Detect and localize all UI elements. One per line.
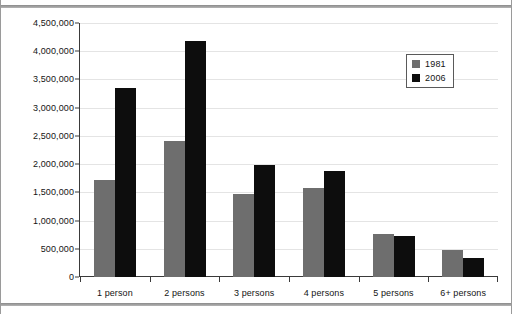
bar-1981-3-persons[interactable] <box>233 194 254 277</box>
legend-swatch-icon <box>412 60 420 68</box>
bar-2006-5-persons[interactable] <box>394 236 415 277</box>
x-axis-tick <box>428 277 429 282</box>
x-axis-category-label: 4 persons <box>289 288 359 306</box>
y-axis-tick-label: 2,500,000 <box>33 131 74 141</box>
x-axis-tick <box>80 277 81 282</box>
bar-group <box>219 23 289 277</box>
chart-legend: 19812006 <box>406 54 454 88</box>
y-axis-tick-label: 3,500,000 <box>33 74 74 84</box>
y-axis-tick-label: 1,500,000 <box>33 187 74 197</box>
x-axis-category-label: 3 persons <box>219 288 289 306</box>
bar-group <box>80 23 150 277</box>
bar-2006-4-persons[interactable] <box>324 171 345 277</box>
bar-1981-1-person[interactable] <box>94 180 115 277</box>
bar-2006-6+-persons[interactable] <box>463 258 484 277</box>
bar-chart: 4,500,0004,000,0003,500,0003,000,0002,50… <box>1 12 512 302</box>
y-axis-tick-label: 4,500,000 <box>33 18 74 28</box>
y-axis-tick-label: 3,000,000 <box>33 103 74 113</box>
legend-item[interactable]: 1981 <box>412 59 446 69</box>
bar-1981-6+-persons[interactable] <box>442 250 463 277</box>
legend-label: 1981 <box>425 59 446 69</box>
bar-1981-2-persons[interactable] <box>164 141 185 277</box>
x-axis-category-label: 5 persons <box>359 288 429 306</box>
bar-group <box>150 23 220 277</box>
y-axis-tick-label: 2,000,000 <box>33 159 74 169</box>
y-axis-tick-label: 4,000,000 <box>33 46 74 56</box>
bar-group <box>289 23 359 277</box>
legend-label: 2006 <box>425 73 446 83</box>
legend-item[interactable]: 2006 <box>412 73 446 83</box>
x-axis-tick <box>219 277 220 282</box>
bar-2006-3-persons[interactable] <box>254 165 275 277</box>
bar-2006-2-persons[interactable] <box>185 41 206 278</box>
x-axis-tick <box>359 277 360 282</box>
x-axis-tick <box>150 277 151 282</box>
page-frame: 4,500,0004,000,0003,500,0003,000,0002,50… <box>0 0 512 314</box>
x-axis-category-label: 1 person <box>80 288 150 306</box>
x-axis-labels: 1 person2 persons3 persons4 persons5 per… <box>80 288 498 306</box>
x-axis-category-label: 2 persons <box>150 288 220 306</box>
bar-2006-1-person[interactable] <box>115 88 136 277</box>
bar-1981-5-persons[interactable] <box>373 234 394 277</box>
bar-1981-4-persons[interactable] <box>303 188 324 277</box>
top-divider <box>1 5 511 8</box>
y-axis-labels: 4,500,0004,000,0003,500,0003,000,0002,50… <box>1 23 74 277</box>
x-axis-tick <box>497 277 498 282</box>
x-axis-category-label: 6+ persons <box>428 288 498 306</box>
y-axis-tick-label: 0 <box>69 272 74 282</box>
x-axis-tick <box>289 277 290 282</box>
y-axis-tick-label: 500,000 <box>41 244 74 254</box>
legend-swatch-icon <box>412 74 420 82</box>
y-axis-tick-label: 1,000,000 <box>33 216 74 226</box>
